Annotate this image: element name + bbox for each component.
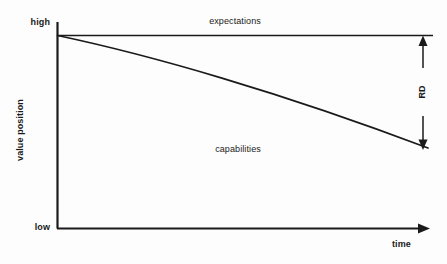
y-axis-tick-label-low: low [0, 222, 50, 232]
x-axis-arrow-icon [418, 224, 430, 234]
chart-figure: high low value position time expectation… [0, 0, 447, 264]
rd-gap-annotation-label: RD [417, 68, 427, 116]
chart-canvas [0, 0, 447, 264]
capabilities-curve [58, 36, 429, 149]
capabilities-region-label: capabilities [178, 144, 298, 154]
y-axis-title: value position [15, 83, 25, 177]
expectations-region-label: expectations [175, 16, 295, 26]
rd-arrow-head-up-icon [419, 36, 428, 47]
x-axis-title: time [392, 239, 411, 249]
y-axis-tick-label-high: high [0, 17, 50, 27]
